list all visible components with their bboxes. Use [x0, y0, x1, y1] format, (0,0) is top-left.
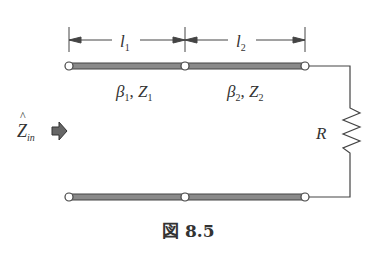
hat-accent: ^ [20, 109, 26, 123]
length-label-1: l1 [120, 32, 130, 53]
segment-1-label: β1, Z1 [115, 82, 152, 103]
node-icon [181, 193, 189, 201]
transmission-line-diagram: l1 l2 β1, Z1 β2, Z2 R Zin ^ 図 8.5 [0, 0, 385, 257]
resistor-label: R [315, 124, 327, 143]
figure-caption: 図 8.5 [162, 221, 215, 241]
dimension-markers [69, 27, 305, 52]
top-conductor [65, 62, 309, 70]
segment-2-label: β2, Z2 [226, 82, 263, 103]
node-icon [181, 62, 189, 70]
node-icon [65, 193, 73, 201]
node-icon [301, 193, 309, 201]
length-label-2: l2 [236, 32, 246, 53]
node-icon [65, 62, 73, 70]
node-icon [301, 62, 309, 70]
bottom-conductor [65, 193, 309, 201]
input-impedance-label: Zin [17, 121, 35, 143]
right-arrow-icon [52, 122, 67, 140]
